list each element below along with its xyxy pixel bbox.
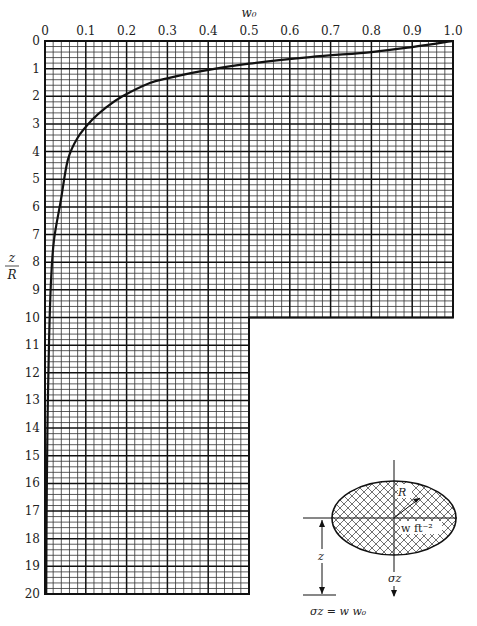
y-tick-label: 18 (25, 532, 40, 546)
y-tick-label: 2 (32, 89, 40, 103)
x-tick-label: 0.5 (239, 24, 258, 38)
formula-caption: σz = w w₀ (310, 605, 367, 618)
y-tick-label: 1 (32, 62, 40, 76)
x-tick-labels: 00.10.20.30.40.50.60.70.80.91.0 (41, 24, 462, 38)
y-tick-label: 11 (25, 338, 40, 352)
arrow-up-icon (319, 520, 325, 527)
x-tick-label: 1.0 (443, 24, 462, 38)
y-tick-label: 4 (32, 145, 40, 159)
y-tick-label: 9 (32, 283, 40, 297)
y-tick-label: 17 (25, 504, 40, 518)
y-tick-label: 15 (25, 449, 40, 463)
y-tick-labels: 01234567891011121314151617181920 (25, 34, 41, 601)
radius-label: R (397, 486, 406, 499)
y-axis-title-numerator: z (8, 251, 16, 265)
x-tick-label: 0 (41, 24, 49, 38)
y-tick-label: 5 (32, 172, 40, 186)
y-tick-label: 12 (25, 366, 40, 380)
x-tick-label: 0.7 (321, 24, 340, 38)
y-tick-label: 19 (25, 559, 40, 573)
y-tick-label: 8 (32, 255, 40, 269)
x-tick-label: 0.9 (403, 24, 422, 38)
arrow-down-icon (319, 587, 325, 594)
y-tick-label: 3 (32, 117, 40, 131)
stress-label: σz (388, 572, 402, 585)
y-tick-label: 7 (32, 228, 40, 242)
y-tick-label: 16 (25, 476, 40, 490)
y-tick-label: 6 (32, 200, 40, 214)
stress-arrow-icon (391, 590, 397, 597)
x-tick-label: 0.3 (158, 24, 177, 38)
load-label: w ft⁻² (401, 522, 433, 535)
x-tick-label: 0.2 (117, 24, 136, 38)
y-tick-label: 13 (25, 393, 40, 407)
x-tick-label: 0.1 (76, 24, 95, 38)
y-tick-label: 10 (25, 311, 40, 325)
y-axis-title-denominator: R (6, 268, 16, 282)
x-tick-label: 0.8 (362, 24, 381, 38)
depth-label: z (317, 550, 324, 563)
x-tick-label: 0.4 (199, 24, 218, 38)
y-tick-label: 14 (25, 421, 41, 435)
x-axis-title: w₀ (241, 6, 256, 20)
y-tick-label: 20 (25, 587, 40, 601)
x-tick-label: 0.6 (280, 24, 299, 38)
y-tick-label: 0 (32, 34, 40, 48)
y-axis-title: z R (5, 251, 19, 282)
inset-diagram: R w ft⁻² z σz σz = w w₀ (303, 460, 457, 618)
influence-chart: 00.10.20.30.40.50.60.70.80.91.0 01234567… (0, 0, 477, 626)
